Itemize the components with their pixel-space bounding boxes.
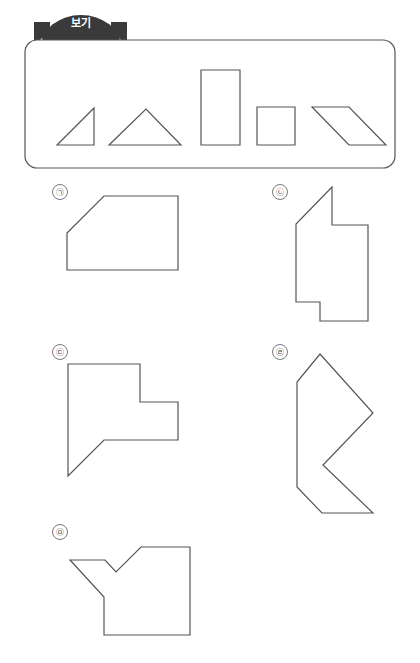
worksheet-canvas: [0, 0, 420, 663]
worksheet-page: 보기 ㉠ ㉡ ㉢ ㉣ ㉤: [0, 0, 420, 663]
answer-shape-e[interactable]: [70, 547, 190, 635]
answer-shape-b[interactable]: [296, 187, 368, 321]
banner-label: 보기: [59, 17, 103, 31]
answer-label-b: ㉡: [272, 184, 288, 200]
answer-label-a: ㉠: [52, 184, 68, 200]
answer-label-e: ㉤: [52, 524, 68, 540]
answer-shape-c[interactable]: [68, 364, 178, 476]
answer-label-c: ㉢: [52, 344, 68, 360]
answer-shape-d[interactable]: [297, 354, 373, 513]
reference-panel-border: [25, 40, 395, 168]
answer-shapes: [67, 187, 373, 635]
answer-label-d: ㉣: [272, 344, 288, 360]
answer-shape-a[interactable]: [67, 196, 178, 270]
reference-shapes-panel: [25, 40, 395, 168]
